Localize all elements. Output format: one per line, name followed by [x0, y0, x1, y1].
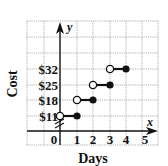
y-tick-label: $25 [39, 78, 59, 93]
x-axis-title: Days [78, 151, 108, 166]
closed-circle-icon [106, 81, 113, 88]
x-axis-symbol: x [146, 115, 153, 129]
x-tick-label: 5 [142, 132, 149, 147]
x-tick-label: 4 [123, 132, 130, 147]
open-endpoints [56, 65, 113, 119]
y-axis-symbol: y [65, 20, 73, 34]
open-circle-icon [89, 81, 96, 88]
x-tick-label: 2 [90, 132, 97, 147]
y-axis-title: Cost [5, 70, 20, 98]
y-tick-label: $32 [39, 62, 59, 77]
closed-endpoints [73, 65, 129, 119]
step-series [64, 69, 126, 116]
x-tick-label: 0 [51, 132, 58, 147]
y-tick-label: $11 [39, 109, 58, 124]
closed-circle-icon [89, 96, 96, 103]
open-circle-icon [106, 65, 113, 72]
closed-circle-icon [73, 112, 80, 119]
y-tick-label: $18 [39, 93, 59, 108]
step-chart: y x $32 $25 $18 $11 0 1 2 3 4 5 Days Cos… [0, 0, 168, 166]
open-circle-icon [56, 112, 63, 119]
closed-circle-icon [122, 65, 129, 72]
x-tick-label: 1 [74, 132, 81, 147]
open-circle-icon [73, 96, 80, 103]
x-tick-label: 3 [107, 132, 114, 147]
